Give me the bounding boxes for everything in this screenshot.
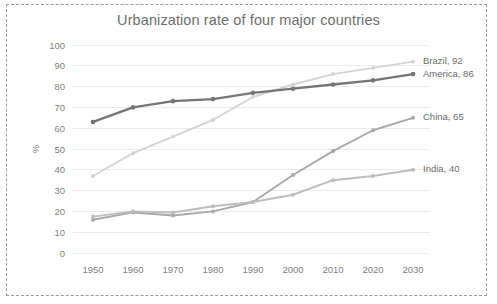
x-axis-tick-1970: 1970 <box>162 264 183 275</box>
series-line-brazil <box>93 62 413 176</box>
data-point-america-2000 <box>291 86 296 91</box>
data-point-india-1950 <box>91 215 95 219</box>
x-axis-tick-2020: 2020 <box>362 264 383 275</box>
y-axis-tick-80: 80 <box>54 81 65 92</box>
y-axis-tick-40: 40 <box>54 164 65 175</box>
y-axis-tick-70: 70 <box>54 102 65 113</box>
data-point-brazil-1950 <box>91 174 95 178</box>
data-point-india-1980 <box>211 204 215 208</box>
chart-plot-area: 1009080706050403020100 19501960197019801… <box>0 0 497 304</box>
data-point-brazil-2000 <box>291 83 295 87</box>
y-axis-tick-0: 0 <box>60 248 65 259</box>
data-point-america-2030 <box>411 72 416 77</box>
data-point-china-2030 <box>411 116 415 120</box>
y-axis-tick-100: 100 <box>49 40 65 51</box>
line-chart-svg: 1009080706050403020100 19501960197019801… <box>0 0 497 304</box>
y-axis-tick-labels: 1009080706050403020100 <box>49 40 65 259</box>
x-axis-tick-2010: 2010 <box>322 264 343 275</box>
series-end-label-america: America, 86 <box>423 68 474 79</box>
y-axis-tick-30: 30 <box>54 185 65 196</box>
data-point-china-2020 <box>371 128 375 132</box>
y-axis-tick-10: 10 <box>54 227 65 238</box>
data-point-brazil-2030 <box>411 60 415 64</box>
x-axis-tick-1960: 1960 <box>122 264 143 275</box>
data-point-india-2010 <box>331 178 335 182</box>
y-axis-tick-50: 50 <box>54 144 65 155</box>
x-axis-tick-1950: 1950 <box>82 264 103 275</box>
data-point-america-1980 <box>211 97 216 102</box>
series-end-label-china: China, 65 <box>423 111 464 122</box>
data-point-brazil-2020 <box>371 66 375 70</box>
data-point-brazil-2010 <box>331 72 335 76</box>
data-point-america-1990 <box>251 91 256 96</box>
data-point-brazil-1980 <box>211 118 215 122</box>
x-axis-tick-labels: 195019601970198019902000201020202030 <box>82 264 423 275</box>
series-end-label-india: India, 40 <box>423 163 459 174</box>
data-point-america-2020 <box>371 78 376 83</box>
y-axis-tick-20: 20 <box>54 206 65 217</box>
x-axis-tick-2030: 2030 <box>402 264 423 275</box>
data-point-china-2010 <box>331 149 335 153</box>
data-point-india-1990 <box>251 200 255 204</box>
series-end-label-brazil: Brazil, 92 <box>423 55 463 66</box>
data-point-china-2000 <box>291 173 295 177</box>
data-point-india-2020 <box>371 174 375 178</box>
data-point-india-2030 <box>411 168 415 172</box>
series-end-labels-group: Brazil, 92America, 86China, 65India, 40 <box>423 55 474 174</box>
series-lines-group <box>93 62 413 220</box>
y-axis-tick-60: 60 <box>54 123 65 134</box>
data-point-america-1970 <box>171 99 176 104</box>
series-line-china <box>93 118 413 220</box>
data-point-america-1960 <box>131 105 136 110</box>
series-markers-group <box>91 60 416 222</box>
data-point-brazil-1970 <box>171 135 175 139</box>
data-point-america-1950 <box>91 120 96 125</box>
x-axis-tick-1990: 1990 <box>242 264 263 275</box>
data-point-india-2000 <box>291 193 295 197</box>
data-point-india-1970 <box>171 210 175 214</box>
series-line-india <box>93 170 413 217</box>
data-point-china-1980 <box>211 209 215 213</box>
data-point-india-1960 <box>131 209 135 213</box>
data-point-brazil-1960 <box>131 151 135 155</box>
data-point-brazil-1990 <box>251 95 255 99</box>
data-point-america-2010 <box>331 82 336 87</box>
y-axis-tick-90: 90 <box>54 60 65 71</box>
y-axis-label: % <box>30 144 41 153</box>
x-axis-tick-2000: 2000 <box>282 264 303 275</box>
gridlines-group <box>73 45 430 253</box>
x-axis-tick-1980: 1980 <box>202 264 223 275</box>
